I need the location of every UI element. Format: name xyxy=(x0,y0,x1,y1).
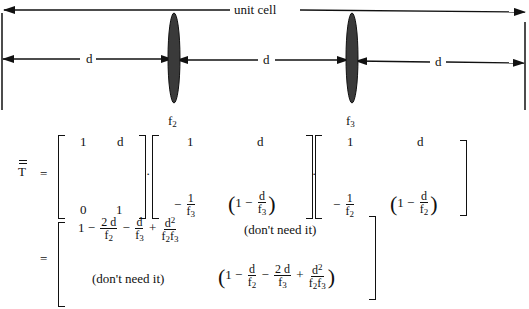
m3-a12: d xyxy=(417,135,424,149)
m2-a22: (1 − df3) xyxy=(228,190,276,218)
result-right-bracket xyxy=(369,216,376,300)
matrix3-right-bracket xyxy=(460,140,467,216)
matrix1-right-bracket xyxy=(139,135,146,219)
matrix3-left-bracket xyxy=(315,135,322,219)
m3-a21: − 1f2 xyxy=(333,192,356,220)
segment-label-3: d xyxy=(433,55,444,69)
segment-label-2: d xyxy=(261,53,272,67)
unit-cell-label: unit cell xyxy=(232,3,278,17)
result-r11: 1 − 2 df2 − df3 + d2f2f3 xyxy=(78,214,181,245)
lens-f3 xyxy=(346,13,358,103)
matrix2-left-bracket xyxy=(152,135,159,219)
transfer-matrix-symbol: T xyxy=(18,160,27,179)
result-r12: (don't need it) xyxy=(244,223,316,237)
lens-f2 xyxy=(168,13,180,103)
result-r22: (1 − df2 − 2 df3 + d2f2f3) xyxy=(218,261,335,292)
lens-f2-label: f2 xyxy=(168,114,177,131)
result-left-bracket xyxy=(58,222,65,307)
m3-a22: (1 − df2) xyxy=(390,190,438,218)
result-equals-sign: = xyxy=(40,252,47,266)
m1-a12: d xyxy=(117,135,124,149)
dot-operator-1: · xyxy=(146,167,150,181)
result-r21: (don't need it) xyxy=(92,272,164,286)
lens-f3-label: f3 xyxy=(346,114,355,131)
equals-sign: = xyxy=(40,167,47,181)
segment-label-1: d xyxy=(84,52,95,66)
m3-a11: 1 xyxy=(347,135,354,149)
m2-a12: d xyxy=(257,135,264,149)
m1-a11: 1 xyxy=(80,135,87,149)
m2-a11: 1 xyxy=(187,135,194,149)
matrix1-left-bracket xyxy=(58,135,65,219)
